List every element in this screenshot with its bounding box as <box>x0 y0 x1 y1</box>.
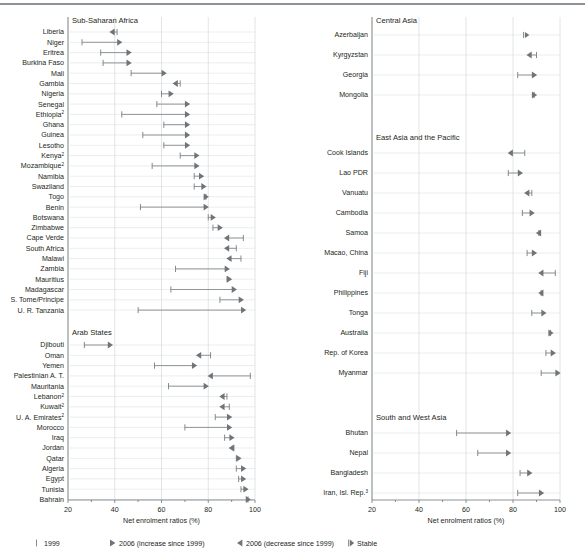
marker-2006-decrease <box>538 270 543 277</box>
chart-row[interactable]: Cambodia <box>336 209 560 217</box>
chart-row[interactable]: Cook Islands <box>327 149 560 157</box>
country-label: Eritrea <box>43 49 64 57</box>
footnote-marker: 2 <box>61 393 64 398</box>
chart-row[interactable]: U. R. Tanzania <box>18 307 255 315</box>
chart-row[interactable]: Samoa <box>346 229 560 237</box>
chart-row[interactable]: S. Tome/Principe <box>11 296 256 304</box>
chart-row[interactable]: Botswana <box>33 214 255 222</box>
chart-row[interactable]: U. A. Emirates2 <box>16 413 255 421</box>
chart-row[interactable]: Lesotho <box>39 142 255 150</box>
legend-item: 2006 (increase since 1999) <box>110 540 205 548</box>
chart-row[interactable]: Australia <box>340 329 560 337</box>
marker-2006-increase <box>225 266 230 273</box>
panel-heading-arab-states: Arab States <box>72 328 112 337</box>
chart-row[interactable]: Eritrea <box>43 49 255 57</box>
country-label: Egypt <box>46 475 64 483</box>
country-label: U. R. Tanzania <box>18 307 64 315</box>
chart-row[interactable]: Egypt <box>46 475 255 483</box>
marker-2006-decrease <box>226 255 231 262</box>
chart-row[interactable]: Swaziland <box>32 183 255 191</box>
country-label: Morocco <box>37 424 64 432</box>
chart-row[interactable]: Macao, China <box>324 249 560 257</box>
x-axis-title: Net enrolment ratios (%) <box>123 517 200 525</box>
chart-row[interactable]: Nepal <box>349 449 560 457</box>
country-label: Samoa <box>346 229 369 237</box>
chart-row[interactable]: Zimbabwe <box>31 224 255 232</box>
x-tick-label: 80 <box>204 506 212 514</box>
chart-row[interactable]: Cape Verde <box>27 234 255 242</box>
chart-row[interactable]: Philippines <box>334 289 560 297</box>
country-label: Nigeria <box>42 90 65 98</box>
chart-row[interactable]: Namibia <box>38 173 255 181</box>
x-axes: 20406080100Net enrolment ratios (%)20406… <box>64 500 566 525</box>
chart-row[interactable]: Djibouti <box>40 341 255 349</box>
chart-row[interactable]: Benin <box>46 204 255 212</box>
chart-row[interactable]: Ghana <box>43 121 255 129</box>
chart-row[interactable]: Gambia <box>39 80 255 88</box>
chart-row[interactable]: South Africa <box>26 245 255 253</box>
chart-row[interactable]: Oman <box>45 352 255 360</box>
chart-row[interactable]: Madagascar <box>25 286 255 294</box>
chart-row[interactable]: Jordan <box>42 444 255 452</box>
stable-marker-icon <box>350 540 354 547</box>
marker-2006-decrease <box>219 403 224 410</box>
chart-row[interactable]: Senegal <box>38 101 255 109</box>
x-tick-label: 60 <box>462 506 470 514</box>
chart-row[interactable]: Tunisia <box>41 486 255 494</box>
chart-row[interactable]: Malawi <box>42 255 255 263</box>
chart-row[interactable]: Kyrgyzstan <box>333 51 560 59</box>
marker-2006-increase <box>241 465 246 472</box>
chart-row[interactable]: Nigeria <box>42 90 255 98</box>
marker-2006-increase <box>518 170 523 177</box>
marker-2006-increase <box>185 142 190 149</box>
chart-row[interactable]: Morocco <box>37 424 255 432</box>
x-tick-label: 80 <box>509 506 517 514</box>
chart-row[interactable]: Iraq <box>52 434 255 442</box>
chart-row[interactable]: Mali <box>51 70 255 78</box>
chart-row[interactable]: Mauritania <box>31 383 255 391</box>
country-label: Fiji <box>359 269 368 277</box>
chart-row[interactable]: Bhutan <box>346 429 560 437</box>
chart-row[interactable]: Zambia <box>40 265 255 273</box>
marker-2006-decrease <box>524 190 529 197</box>
chart-row[interactable]: Azerbaijan <box>334 31 560 39</box>
chart-row[interactable]: Liberia <box>43 28 255 36</box>
marker-2006-increase <box>243 486 248 493</box>
chart-row[interactable]: Algeria <box>42 465 255 473</box>
chart-row[interactable]: Tonga <box>349 309 560 317</box>
country-label: Mali <box>51 70 64 78</box>
chart-row[interactable]: Georgia <box>343 71 560 79</box>
chart-row[interactable]: Rep. of Korea <box>324 349 560 357</box>
chart-row[interactable]: Kenya2 <box>41 152 255 160</box>
panel-sub-saharan-africa: Sub-Saharan AfricaLiberiaNigerEritreaBur… <box>11 16 256 315</box>
marker-2006-increase <box>185 132 190 139</box>
country-label: Lesotho <box>39 142 64 150</box>
panel-arab-states: Arab StatesDjiboutiOmanYemenPalestinian … <box>14 328 255 504</box>
marker-2006-increase <box>539 490 544 497</box>
chart-row[interactable]: Togo <box>49 193 255 201</box>
x-tick-label: 100 <box>554 506 566 514</box>
country-label: Kenya2 <box>41 152 64 160</box>
chart-row[interactable]: Vanuatu <box>342 189 560 197</box>
country-label: Kyrgyzstan <box>333 51 368 59</box>
chart-row[interactable]: Burkina Faso <box>22 59 255 67</box>
chart-row[interactable]: Guinea <box>41 131 255 139</box>
chart-row[interactable]: Bangladesh <box>331 469 560 477</box>
chart-row[interactable]: Yemen <box>42 362 255 370</box>
chart-row[interactable]: Fiji <box>359 269 560 277</box>
chart-row[interactable]: Lebanon2 <box>34 393 255 401</box>
country-label: Bhutan <box>346 429 369 437</box>
marker-2006-increase <box>117 39 122 46</box>
footnote-marker: 2 <box>61 152 64 157</box>
marker-2006-increase <box>229 434 234 441</box>
chart-row[interactable]: Niger <box>47 39 255 47</box>
country-label: Vanuatu <box>342 189 368 197</box>
chart-row[interactable]: Kuwait2 <box>40 403 255 411</box>
chart-row[interactable]: Iran, Isl. Rep.3 <box>323 489 560 497</box>
stable-wedge <box>525 32 529 38</box>
chart-row[interactable]: Ethiopia2 <box>36 110 255 118</box>
chart-row[interactable]: Palestinian A. T. <box>14 372 255 380</box>
chart-row[interactable]: Qatar <box>46 455 255 463</box>
footnote-marker: 2 <box>61 403 64 408</box>
chart-row[interactable]: Mozambique2 <box>21 162 255 170</box>
